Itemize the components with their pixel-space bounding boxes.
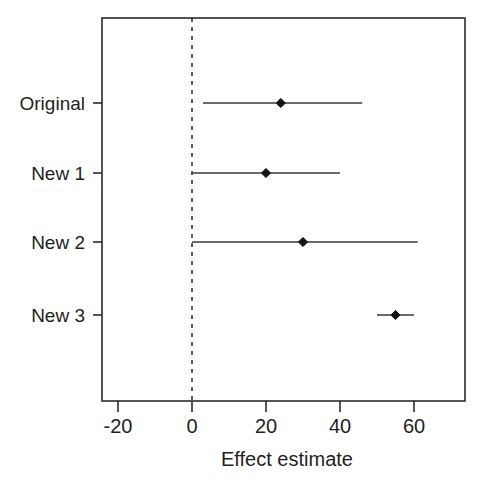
point-estimate-marker [391,310,400,319]
forest-plot-figure: Original New 1 New 2 New 3 -20 0 20 40 6… [0,0,485,489]
point-estimate-marker [276,98,285,107]
point-estimate-marker [261,168,270,177]
x-tick-label-0: 0 [186,415,197,437]
point-estimate-marker [298,237,307,246]
x-tick-label-20: 20 [255,415,277,437]
x-tick-label-60: 60 [403,415,425,437]
data-series-layer [192,98,418,319]
category-label-new-2: New 2 [31,232,85,253]
forest-row [192,237,418,246]
forest-row [203,98,362,107]
plot-frame [102,18,465,401]
forest-row [377,310,414,319]
forest-row [192,168,340,177]
plot-canvas: Original New 1 New 2 New 3 -20 0 20 40 6… [0,0,485,489]
category-label-original: Original [20,93,85,114]
x-tick-label-40: 40 [329,415,351,437]
x-tick-label-minus-20: -20 [104,415,133,437]
x-axis-title: Effect estimate [221,448,353,470]
category-label-new-3: New 3 [31,305,85,326]
category-label-new-1: New 1 [31,163,85,184]
